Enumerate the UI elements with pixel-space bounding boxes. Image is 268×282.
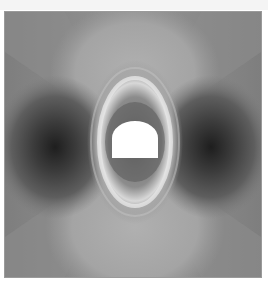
contour-plot	[4, 11, 262, 278]
tunnel-opening	[112, 121, 158, 158]
contour-graphic	[5, 12, 261, 277]
cropped-header-strip	[0, 0, 268, 10]
